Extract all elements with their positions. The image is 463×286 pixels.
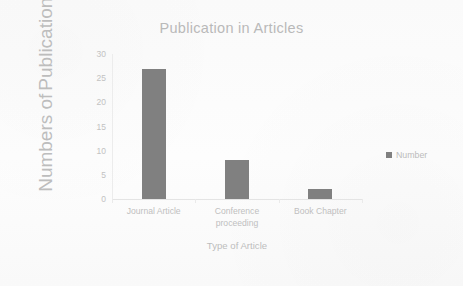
bar-chart-figure: Publication in Articles Numbers of Publi…: [0, 0, 463, 286]
plot-area: [112, 54, 362, 199]
x-axis-tick-mark: [362, 199, 363, 203]
x-axis-category-label: Conference proceeding: [195, 205, 278, 230]
y-axis-title-line-1: Numbers of: [36, 94, 56, 192]
x-axis-tick-mark: [279, 199, 280, 203]
y-axis-tick-label: 20: [80, 97, 106, 107]
y-axis-title: Numbers of Publications: [16, 15, 76, 165]
y-axis-tick-label: 25: [80, 73, 106, 83]
y-axis-tick-label: 10: [80, 146, 106, 156]
x-axis-line: [112, 199, 363, 200]
x-axis-category-label: Journal Article: [112, 205, 195, 217]
y-axis-tick-label: 0: [80, 194, 106, 204]
bar[interactable]: [308, 189, 332, 199]
y-axis-title-line-2: Publications: [36, 0, 56, 91]
chart-legend: Number: [386, 150, 427, 160]
legend-label: Number: [396, 150, 427, 160]
x-axis-tick-mark: [112, 199, 113, 203]
y-axis-tick-label: 30: [80, 49, 106, 59]
x-axis-tick-mark: [195, 199, 196, 203]
x-axis-category-label: Book Chapter: [279, 205, 362, 217]
y-axis-tick-labels: 051015202530: [78, 54, 106, 199]
y-axis-tick-label: 5: [80, 170, 106, 180]
bar[interactable]: [225, 160, 249, 199]
y-axis-tick-label: 15: [80, 122, 106, 132]
bar[interactable]: [142, 69, 166, 200]
legend-swatch-icon: [386, 152, 392, 158]
chart-title: Publication in Articles: [0, 20, 463, 36]
x-axis-title: Type of Article: [112, 240, 362, 251]
